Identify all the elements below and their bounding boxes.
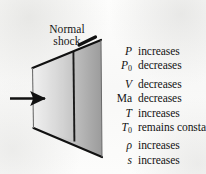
property-symbol: Ma bbox=[108, 91, 132, 105]
property-change-list: PincreasesP0decreasesVdecreasesMadecreas… bbox=[108, 44, 206, 167]
property-symbol-subscript: 0 bbox=[128, 126, 132, 135]
property-change-text: increases bbox=[138, 44, 206, 58]
property-symbol: T bbox=[108, 106, 132, 120]
normal-shock-figure: Normal shock PincreasesP0decreasesVdecre… bbox=[0, 0, 206, 174]
property-symbol: P bbox=[108, 44, 132, 58]
property-symbol: s bbox=[108, 153, 132, 167]
property-symbol: P0 bbox=[108, 58, 132, 76]
property-change-text: increases bbox=[138, 106, 206, 120]
property-change-text: remains constant bbox=[138, 120, 206, 138]
property-symbol: T0 bbox=[108, 120, 132, 138]
property-symbol: ρ bbox=[108, 138, 132, 152]
property-change-text: increases bbox=[138, 138, 206, 152]
property-symbol-subscript: 0 bbox=[128, 64, 132, 73]
shock-label-line2: shock bbox=[38, 35, 96, 47]
property-symbol: V bbox=[108, 77, 132, 91]
property-change-text: increases bbox=[138, 153, 206, 167]
normal-shock-label: Normal shock bbox=[38, 23, 96, 47]
property-change-text: decreases bbox=[138, 91, 206, 105]
property-change-text: decreases bbox=[138, 58, 206, 76]
normal-shock-line bbox=[73, 52, 74, 142]
property-change-text: decreases bbox=[138, 77, 206, 91]
shock-label-line1: Normal bbox=[49, 23, 85, 35]
